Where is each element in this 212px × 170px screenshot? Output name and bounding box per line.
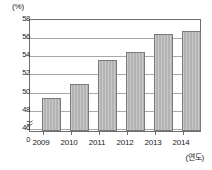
bar-chart: (%) 58 56 54 52 50 48 46 0 2009 2010 [0,0,212,170]
y-tick-58: 58 [14,15,30,23]
x-axis-unit-label: (연도) [185,153,204,163]
x-tickmark-1 [71,132,72,135]
x-tickmark-4 [155,132,156,135]
y-tick-54: 54 [14,51,30,59]
x-tickmark-0 [43,132,44,135]
axis-break-icon [26,118,34,129]
y-tick-50: 50 [14,88,30,96]
x-tickmark-3 [127,132,128,135]
x-tickmark-2 [99,132,100,135]
y-tick-56: 56 [14,33,30,41]
x-label-2014: 2014 [164,138,198,148]
y-tick-48: 48 [14,106,30,114]
y-tick-52: 52 [14,69,30,77]
x-tickmark-5 [183,132,184,135]
